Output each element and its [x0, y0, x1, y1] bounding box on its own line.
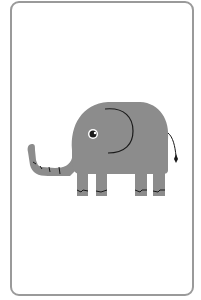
elephant-icon: [28, 102, 178, 196]
elephant-illustration: [0, 0, 201, 300]
